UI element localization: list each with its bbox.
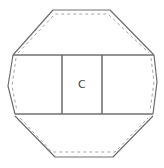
top-trapezoid-dashed-edge — [18, 14, 149, 53]
center-cell-label: C — [78, 79, 86, 90]
band-left-side — [8, 55, 15, 114]
band-right-dashed-side — [150, 58, 154, 111]
bottom-trapezoid-dashed-edge — [20, 118, 148, 152]
top-trapezoid-outline — [13, 10, 154, 55]
diagram-canvas: C — [0, 0, 164, 168]
bottom-trapezoid-outline — [15, 116, 153, 157]
